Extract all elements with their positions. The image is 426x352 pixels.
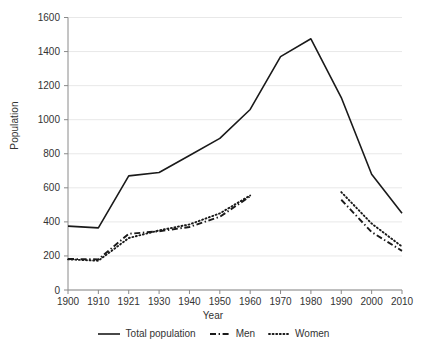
x-tick-label: 1980 (300, 296, 323, 307)
legend-swatch-dash-dot-icon (209, 329, 231, 339)
y-tick-label: 600 (43, 182, 60, 193)
legend-label: Men (236, 328, 255, 339)
x-tick-label: 2010 (391, 296, 414, 307)
y-tick-label: 1400 (38, 46, 61, 57)
legend-item[interactable]: Men (209, 328, 255, 339)
x-tick-label: 1910 (87, 296, 110, 307)
x-tick-label: 2000 (361, 296, 384, 307)
legend-swatch-solid-icon (97, 329, 121, 339)
legend-label: Total population (126, 328, 196, 339)
x-tick-label: 1940 (178, 296, 201, 307)
legend-swatch-dotted-icon (268, 329, 290, 339)
y-tick-label: 1600 (38, 12, 61, 23)
gridlines (68, 18, 402, 291)
axis-lines (64, 18, 402, 295)
population-line-chart: Population Year 020040060080010001200140… (0, 0, 426, 352)
chart-legend: Total populationMenWomen (0, 328, 426, 339)
series-line (341, 192, 402, 247)
x-tick-label: 1921 (118, 296, 141, 307)
y-tick-label: 800 (43, 148, 60, 159)
y-tick-label: 200 (43, 250, 60, 261)
y-tick-labels: 02004006008001000120014001600 (38, 12, 61, 296)
x-tick-labels: 1900191019211930194019501960197019801990… (57, 296, 414, 307)
x-tick-label: 1930 (148, 296, 171, 307)
y-tick-label: 1000 (38, 114, 61, 125)
y-tick-label: 1200 (38, 80, 61, 91)
x-tick-label: 1900 (57, 296, 80, 307)
series-line (341, 200, 402, 251)
x-tick-label: 1970 (269, 296, 292, 307)
legend-label: Women (295, 328, 329, 339)
legend-item[interactable]: Women (268, 328, 329, 339)
plot-area: 02004006008001000120014001600 1900191019… (0, 0, 426, 352)
x-tick-label: 1990 (330, 296, 353, 307)
legend-item[interactable]: Total population (97, 328, 196, 339)
series-line (68, 39, 402, 228)
x-tick-label: 1960 (239, 296, 262, 307)
y-tick-label: 0 (54, 285, 60, 296)
y-tick-label: 400 (43, 216, 60, 227)
data-series (68, 39, 402, 261)
x-tick-label: 1950 (209, 296, 232, 307)
